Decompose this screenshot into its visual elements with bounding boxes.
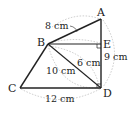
label-B: B bbox=[37, 36, 45, 49]
geometry-diagram: A B E C D 8 cm 9 cm 6 cm 10 cm 12 cm bbox=[0, 0, 134, 114]
label-C: C bbox=[8, 82, 16, 95]
measure-CD: 12 cm bbox=[45, 93, 74, 104]
measure-AB: 8 cm bbox=[45, 20, 68, 31]
measure-BD: 10 cm bbox=[46, 65, 75, 76]
segment-BC bbox=[20, 44, 48, 88]
label-A: A bbox=[96, 6, 106, 19]
measure-6cm: 6 cm bbox=[77, 57, 100, 68]
measure-AD: 9 cm bbox=[104, 51, 127, 62]
label-E: E bbox=[103, 38, 111, 51]
label-D: D bbox=[103, 87, 112, 100]
